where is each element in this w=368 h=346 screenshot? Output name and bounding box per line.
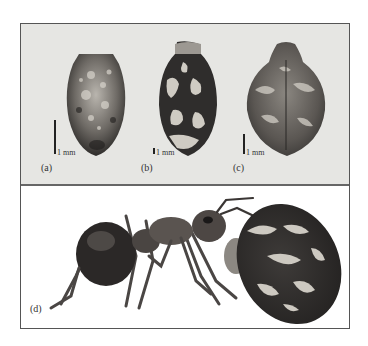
panel-label-b: (b) <box>141 162 153 173</box>
ant-carrying-seed-image <box>21 186 349 328</box>
scale-label-b: 1 mm <box>156 148 174 157</box>
ant-panel: (d) <box>21 186 349 328</box>
scale-label-a: 1 mm <box>57 148 75 157</box>
scale-bar-b: 1 mm <box>153 148 193 154</box>
panel-label-d: (d) <box>30 303 42 314</box>
seed-b-image <box>153 40 223 160</box>
panel-label-a: (a) <box>41 162 52 173</box>
scale-bar-c: 1 mm <box>243 134 283 154</box>
scale-label-c: 1 mm <box>246 148 264 157</box>
figure-frame: 1 mm (a) 1 mm (b) <box>20 23 350 329</box>
seeds-panel: 1 mm (a) 1 mm (b) <box>21 24 349 186</box>
panel-label-c: (c) <box>233 162 244 173</box>
scale-bar-a: 1 mm <box>54 120 94 154</box>
